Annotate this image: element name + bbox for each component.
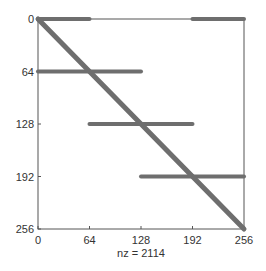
x-tick-label: 256 <box>235 234 253 246</box>
spy-plot: 064128192256 064128192256 nz = 2114 <box>0 0 266 271</box>
y-tick-label: 0 <box>28 13 34 25</box>
x-tick-labels: 064128192256 <box>35 234 253 246</box>
x-tick-label: 0 <box>35 234 41 246</box>
y-tick-label: 128 <box>16 118 34 130</box>
x-tick-label: 64 <box>83 234 95 246</box>
x-tick-label: 192 <box>183 234 201 246</box>
y-tick-label: 256 <box>16 223 34 235</box>
y-tick-label: 192 <box>16 171 34 183</box>
y-tick-label: 64 <box>22 66 34 78</box>
x-axis-label: nz = 2114 <box>117 247 165 259</box>
y-tick-labels: 064128192256 <box>16 13 34 235</box>
x-tick-label: 128 <box>132 234 150 246</box>
